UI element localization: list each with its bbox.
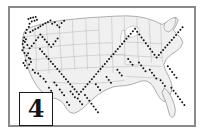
map-marker: [24, 52, 26, 54]
map-marker: [52, 43, 54, 45]
map-marker: [153, 54, 155, 56]
map-marker: [65, 78, 67, 80]
map-marker: [67, 81, 69, 83]
map-marker: [21, 49, 23, 51]
map-marker: [74, 96, 76, 98]
map-marker: [158, 54, 160, 56]
map-marker: [138, 34, 140, 36]
map-marker: [56, 84, 58, 86]
map-marker: [179, 29, 181, 31]
new-england: [164, 18, 176, 32]
map-marker: [125, 38, 127, 40]
map-marker: [32, 69, 34, 71]
map-marker: [99, 68, 101, 70]
map-marker: [142, 67, 144, 69]
map-marker: [116, 69, 118, 71]
map-marker: [61, 73, 63, 75]
map-marker: [97, 71, 99, 73]
map-marker: [78, 93, 80, 95]
map-marker: [36, 19, 38, 21]
map-marker: [39, 75, 41, 77]
map-marker: [141, 36, 143, 38]
map-marker: [34, 72, 36, 74]
map-marker: [84, 86, 86, 88]
map-marker: [72, 93, 74, 95]
map-marker: [162, 82, 164, 84]
map-marker: [99, 89, 101, 91]
map-marker: [173, 36, 175, 38]
map-marker: [52, 63, 54, 65]
map-marker: [149, 69, 151, 71]
map-marker: [88, 100, 90, 102]
map-marker: [173, 90, 175, 92]
map-marker: [44, 39, 46, 41]
map-marker: [24, 41, 26, 43]
map-marker: [23, 46, 25, 48]
map-marker: [45, 81, 47, 83]
map-marker: [80, 91, 82, 93]
map-marker: [28, 63, 30, 65]
map-marker: [37, 72, 39, 74]
map-marker: [179, 98, 181, 100]
map-marker: [63, 76, 65, 78]
map-marker: [29, 47, 31, 49]
map-marker: [43, 78, 45, 80]
map-marker: [175, 93, 177, 95]
map-marker: [108, 79, 110, 81]
map-marker: [97, 111, 99, 113]
map-marker: [169, 68, 171, 70]
map-marker: [175, 34, 177, 36]
map-marker: [106, 61, 108, 63]
map-marker: [53, 81, 55, 83]
map-marker: [29, 31, 31, 33]
map-marker: [119, 72, 121, 74]
map-marker: [129, 61, 131, 63]
map-marker: [89, 81, 91, 83]
map-marker: [22, 62, 24, 64]
map-marker: [93, 76, 95, 78]
map-marker: [121, 43, 123, 45]
map-marker: [69, 83, 71, 85]
map-marker: [144, 70, 146, 72]
map-marker: [37, 36, 39, 38]
map-marker: [48, 58, 50, 60]
map-marker: [84, 94, 86, 96]
map-marker: [37, 27, 39, 29]
florida-peninsula: [162, 88, 175, 118]
map-marker: [97, 86, 99, 88]
map-marker: [22, 40, 24, 42]
map-marker: [25, 59, 27, 61]
map-marker: [45, 55, 47, 57]
map-marker: [71, 86, 73, 88]
map-marker: [63, 94, 65, 96]
map-marker: [25, 38, 27, 40]
map-marker: [70, 90, 72, 92]
map-marker: [44, 22, 46, 24]
map-marker: [29, 58, 31, 60]
map-marker: [26, 29, 28, 31]
map-marker: [33, 42, 35, 44]
map-marker: [56, 24, 58, 26]
map-marker: [82, 88, 84, 90]
map-marker: [123, 40, 125, 42]
map-marker: [35, 16, 37, 18]
map-marker: [95, 83, 97, 85]
map-marker: [167, 65, 169, 67]
map-marker: [54, 40, 56, 42]
map-marker: [132, 30, 134, 32]
map-marker: [130, 33, 132, 35]
map-marker: [22, 43, 24, 45]
map-marker: [50, 61, 52, 63]
map-marker: [175, 77, 177, 79]
map-marker: [59, 89, 61, 91]
map-marker: [90, 103, 92, 105]
map-marker: [23, 36, 25, 38]
map-marker: [177, 31, 179, 33]
map-marker: [61, 22, 63, 24]
map-marker: [119, 45, 121, 47]
map-marker: [104, 63, 106, 65]
map-marker: [30, 61, 32, 63]
map-marker: [149, 48, 151, 50]
map-marker: [41, 50, 43, 52]
map-marker: [32, 16, 34, 18]
